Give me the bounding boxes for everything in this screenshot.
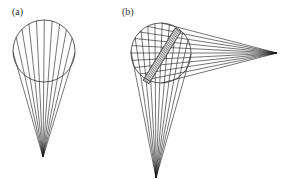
fan-rays bbox=[13, 20, 75, 157]
panel-b-label: (b) bbox=[122, 6, 134, 18]
projection-diagram: (a) (b) bbox=[0, 0, 291, 180]
diagonal-strip bbox=[143, 28, 181, 84]
panel-a-fan-beam bbox=[13, 20, 75, 157]
panel-a-label: (a) bbox=[12, 6, 23, 18]
panel-b-dual-fan-beam bbox=[131, 23, 277, 178]
